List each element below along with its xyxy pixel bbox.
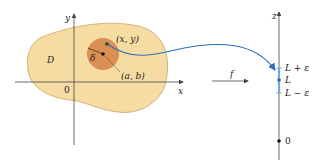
label-y-axis: y — [64, 13, 71, 23]
label-delta: δ — [90, 53, 95, 63]
label-upper: L + ε — [284, 63, 309, 73]
label-lower: L − ε — [284, 88, 309, 98]
label-l: L — [284, 75, 291, 85]
label-z-axis: z — [271, 11, 277, 21]
z-origin-point — [277, 139, 281, 143]
limit-diagram: D x y 0 (x, y) (a, b) δ f z L + ε L L − … — [0, 0, 321, 168]
label-f: f — [229, 69, 235, 79]
point-l — [277, 78, 281, 82]
label-x-axis: x — [178, 86, 183, 96]
label-d: D — [46, 55, 54, 65]
label-origin: 0 — [64, 85, 70, 95]
label-ab: (a, b) — [121, 71, 145, 81]
point-ab — [101, 52, 105, 56]
label-xy: (x, y) — [116, 34, 139, 44]
label-z-origin: 0 — [285, 136, 291, 146]
